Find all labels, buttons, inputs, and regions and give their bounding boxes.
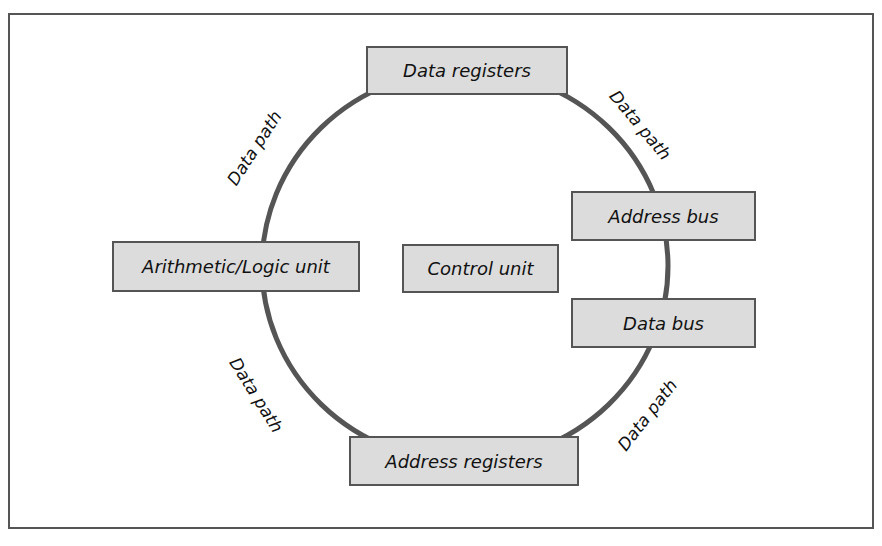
address-bus-label: Address bus xyxy=(608,206,718,227)
data-registers-label: Data registers xyxy=(403,60,531,81)
data-registers-box: Data registers xyxy=(366,46,568,95)
address-bus-box: Address bus xyxy=(571,191,756,241)
address-registers-box: Address registers xyxy=(349,436,579,486)
data-bus-box: Data bus xyxy=(571,298,756,348)
alu-box: Arithmetic/Logic unit xyxy=(112,241,360,292)
address-registers-label: Address registers xyxy=(385,451,542,472)
control-unit-label: Control unit xyxy=(427,258,533,279)
alu-label: Arithmetic/Logic unit xyxy=(142,256,330,277)
data-bus-label: Data bus xyxy=(623,313,704,334)
control-unit-box: Control unit xyxy=(402,244,559,293)
